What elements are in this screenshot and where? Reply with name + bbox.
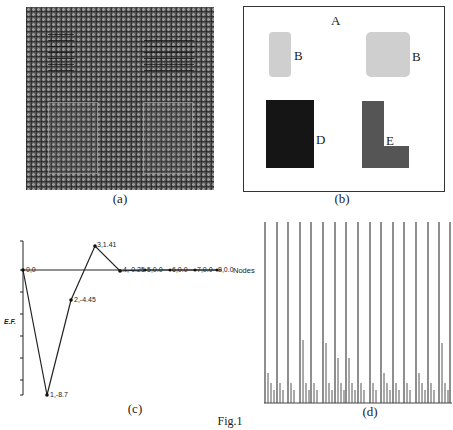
point-label-2: 2,-4.45	[74, 296, 96, 303]
point-label-1: 1,-8.7	[50, 391, 68, 398]
y-axis-label: E.F.	[4, 318, 16, 325]
panel-b-segmentation: A B B D E	[243, 6, 445, 192]
point-label-6: 6,0.0	[172, 266, 188, 273]
point-label-3: 3,1.41	[97, 241, 116, 248]
panel-a-region-top-left	[48, 29, 74, 71]
label-region-d: D	[316, 132, 325, 148]
caption-b: (b)	[322, 191, 362, 207]
panel-d-spectrum-chart	[262, 218, 452, 404]
point-label-0: 0,0	[26, 266, 36, 273]
label-region-b-right: B	[412, 49, 421, 65]
point-label-5: 5,0.0	[147, 266, 163, 273]
region-d	[266, 100, 314, 168]
region-b-right	[366, 32, 410, 77]
label-region-e: E	[386, 133, 394, 149]
point-label-7: 7,0.0	[197, 266, 213, 273]
panel-a-image	[26, 7, 214, 190]
point-label-4: 4,-0.25	[123, 266, 145, 273]
caption-a: (a)	[100, 191, 140, 207]
region-b-left	[269, 32, 291, 77]
figure-title: Fig.1	[200, 414, 260, 429]
x-axis-label: Nodes	[233, 266, 255, 275]
label-region-b-left: B	[294, 48, 303, 64]
point-label-8: 8,0.0	[218, 266, 234, 273]
panel-a-region-bottom-right	[143, 102, 193, 174]
label-region-a: A	[331, 13, 340, 29]
region-e-vertical	[362, 101, 384, 168]
panel-a-region-bottom-left	[48, 102, 98, 174]
panel-a-region-top-right	[144, 35, 194, 71]
caption-c: (c)	[115, 401, 155, 417]
caption-d: (d)	[350, 404, 390, 420]
panel-c-line-chart	[0, 230, 260, 405]
region-e-foot	[384, 146, 409, 168]
